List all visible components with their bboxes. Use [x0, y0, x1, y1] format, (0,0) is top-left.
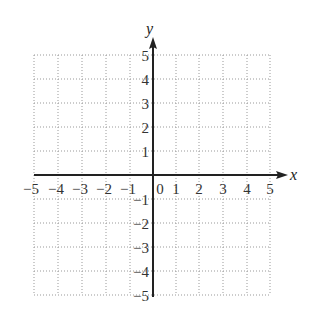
y-positive-ticks: 5 4 3 2 1 [142, 48, 150, 160]
y-negative-ticks: −1 −2 −3 −4 −5 [133, 192, 149, 304]
svg-text:−2: −2 [96, 181, 112, 197]
svg-text:1: 1 [142, 144, 150, 160]
svg-text:2: 2 [195, 181, 203, 197]
svg-text:4: 4 [243, 181, 251, 197]
svg-text:−4: −4 [48, 181, 64, 197]
svg-text:−1: −1 [133, 192, 149, 208]
svg-text:3: 3 [219, 181, 227, 197]
svg-text:−5: −5 [23, 181, 39, 197]
x-axis-label: x [289, 166, 297, 183]
svg-text:5: 5 [266, 181, 274, 197]
x-negative-ticks: −5 −4 −3 −2 −1 [23, 181, 136, 197]
svg-text:3: 3 [142, 96, 150, 112]
svg-text:−2: −2 [133, 216, 149, 232]
x-axis [34, 171, 288, 179]
svg-text:−3: −3 [72, 181, 88, 197]
coordinate-plane: x y −5 −4 −3 −2 −1 0 1 2 3 4 5 5 4 3 2 1… [0, 0, 312, 318]
svg-text:2: 2 [142, 120, 150, 136]
y-axis-label: y [144, 20, 154, 38]
svg-text:1: 1 [172, 181, 180, 197]
y-axis [149, 37, 157, 297]
svg-text:4: 4 [142, 72, 150, 88]
svg-text:−4: −4 [133, 264, 149, 280]
svg-text:−3: −3 [133, 240, 149, 256]
origin-label: 0 [156, 181, 164, 197]
svg-text:−5: −5 [133, 288, 149, 304]
svg-text:5: 5 [142, 48, 150, 64]
x-positive-ticks: 1 2 3 4 5 [172, 181, 274, 197]
